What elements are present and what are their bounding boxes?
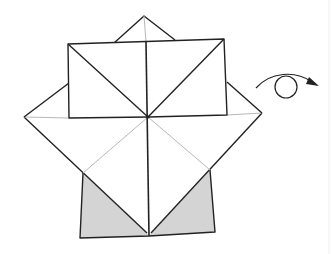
top-peak bbox=[114, 16, 175, 43]
origami-diagram bbox=[0, 0, 331, 254]
turn-over-icon bbox=[256, 74, 319, 98]
turn-over-arrowhead bbox=[306, 77, 319, 86]
diamond-body bbox=[24, 113, 262, 233]
diamond-fill bbox=[24, 113, 262, 233]
turn-over-circle bbox=[275, 76, 297, 98]
left-upper-edge bbox=[24, 83, 69, 117]
center-point bbox=[146, 115, 149, 118]
